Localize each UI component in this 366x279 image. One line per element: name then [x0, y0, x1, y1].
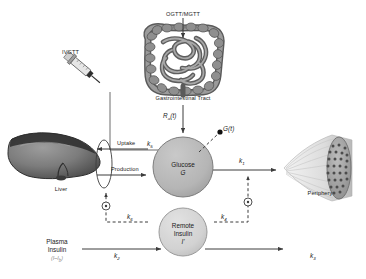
gastrointestinal-tract-label: Gastrointestinal Tract: [142, 95, 224, 101]
remote-insulin-line3: I': [153, 238, 213, 246]
plasma-insulin-line3: (I–Ib): [25, 255, 89, 264]
remote-insulin-compartment-label: Remote Insulin I': [153, 222, 213, 246]
remote-insulin-line1: Remote: [153, 222, 213, 230]
k3-rate-label: k3: [310, 252, 316, 261]
glucose-signal-label: G(t): [223, 125, 234, 132]
k2-rate-label: k2: [114, 252, 120, 261]
periphery-label: Periphery: [295, 190, 345, 196]
remote-insulin-line2: Insulin: [153, 230, 213, 238]
ra-rate-label: Ra(t): [163, 112, 177, 121]
k5-rate-label: k5: [147, 140, 153, 149]
glucose-compartment-line1: Glucose: [153, 161, 213, 169]
liver-label: Liver: [40, 186, 82, 192]
k4-modulation-path: [214, 176, 248, 222]
production-label: Production: [111, 166, 139, 172]
plasma-insulin-label: Plasma Insulin (I–Ib): [25, 238, 89, 264]
plasma-insulin-line2: Insulin: [25, 246, 89, 254]
ivgtt-label: IVGTT: [62, 49, 79, 55]
uptake-label: Uptake: [117, 140, 135, 146]
glucose-sample-dot: [217, 129, 222, 134]
gi-tract-graphic: [144, 23, 223, 96]
k6-rate-label: k6: [127, 213, 133, 222]
syringe-graphic: [63, 50, 104, 87]
compartment-diagram: OGTT/MGTT IVGTT Gastrointestinal Tract R…: [0, 0, 366, 279]
plasma-insulin-line1: Plasma: [25, 238, 89, 246]
glucose-compartment-line2: G: [153, 169, 213, 177]
glucose-compartment-label: Glucose G: [153, 161, 213, 177]
ogtt-mgtt-label: OGTT/MGTT: [160, 11, 206, 17]
k4-rate-label: k4: [221, 213, 227, 222]
liver-graphic: [8, 133, 100, 181]
k1-rate-label: k1: [239, 157, 245, 166]
